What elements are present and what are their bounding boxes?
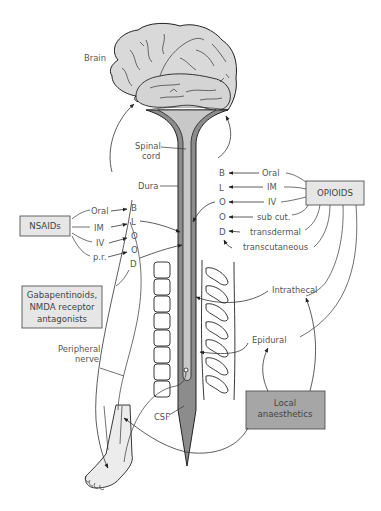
opioid-route-transdermal: transdermal <box>250 227 301 237</box>
spinal-cord-label-1: Spinal <box>135 141 161 151</box>
brain-label: Brain <box>84 53 106 63</box>
gabapentinoids-line3: antagonists <box>37 314 88 324</box>
local-anaesthetics-line1: Local <box>274 398 296 408</box>
nsaid-letter-o1: O <box>131 231 138 241</box>
dura-label: Dura <box>138 181 158 191</box>
peripheral-nerve-label-2: nerve <box>75 354 99 364</box>
opioid-route-oral: Oral <box>262 168 280 178</box>
opioid-route-subcut: sub cut. <box>257 212 291 222</box>
nerve-root-dot <box>184 368 188 372</box>
opioids-label: OPIOIDS <box>317 188 353 198</box>
peripheral-nerve-label-1: Peripheral <box>58 344 100 354</box>
csf-label: CSF <box>154 412 170 422</box>
nsaid-route-iv: IV <box>96 238 104 248</box>
analgesia-diagram: Brain Spinal cord Dura Peripheral nerve … <box>0 0 381 511</box>
spinous-processes <box>202 260 235 400</box>
opioid-letter-b: B <box>219 168 225 178</box>
epidural-label: Epidural <box>252 335 286 345</box>
local-anaesthetics-line2: anaesthetics <box>258 409 313 419</box>
opioid-letter-o1: O <box>219 197 226 207</box>
nsaid-to-brain-arrow <box>110 104 134 172</box>
nsaid-route-pr: p.r. <box>93 252 106 262</box>
intrathecal-label: Intrathecal <box>272 285 317 295</box>
brain-illustration <box>110 23 236 110</box>
nsaid-letter-o2: O <box>131 245 138 255</box>
nsaid-route-oral: Oral <box>91 206 109 216</box>
nsaid-letter-b: B <box>131 203 137 213</box>
nsaid-letter-d: D <box>130 259 137 269</box>
peripheral-nerve-leader <box>100 368 124 376</box>
opioid-to-brain-arrow <box>218 116 231 158</box>
gabapentinoids-line1: Gabapentinoids, <box>27 290 97 300</box>
nsaid-route-im: IM <box>94 223 104 233</box>
spinal-cord-label-2: cord <box>142 151 160 161</box>
opioid-route-im: IM <box>267 182 277 192</box>
leg-and-foot <box>85 405 132 490</box>
nsaid-letter-l: L <box>131 217 136 227</box>
nsaids-label: NSAIDs <box>29 221 61 231</box>
opioid-route-iv: IV <box>268 197 276 207</box>
opioid-letter-l: L <box>219 183 224 193</box>
opioid-route-transcutaneous: transcutaneous <box>243 242 308 252</box>
gabapentinoids-group: Gabapentinoids, NMDA receptor antagonist… <box>22 286 102 328</box>
vertebrae-front <box>154 262 170 397</box>
opioid-letter-d: D <box>219 227 226 237</box>
gabapentinoids-line2: NMDA receptor <box>29 302 95 312</box>
opioid-letter-o2: O <box>219 212 226 222</box>
